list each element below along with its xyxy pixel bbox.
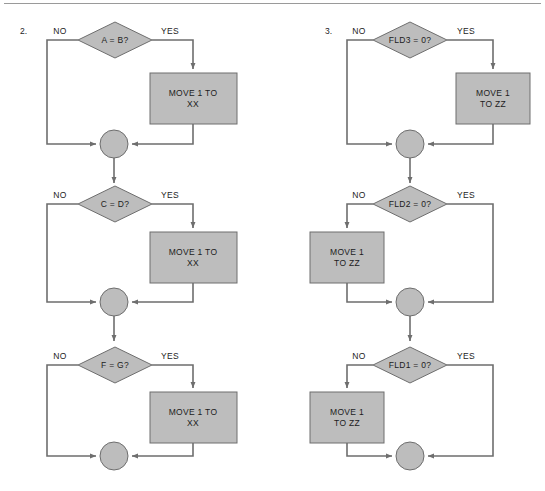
decision-label: FLD3 = 0? <box>389 35 432 45</box>
connector-process-to-merge <box>132 443 193 456</box>
merge-connector-circle <box>396 442 424 470</box>
connector-no-to-process <box>347 365 373 388</box>
connector-process-to-merge <box>132 124 193 144</box>
figure-2-section-3: F = G? NO YES MOVE 1 TO XX <box>47 347 237 470</box>
merge-connector-circle <box>396 130 424 158</box>
branch-label-yes: YES <box>457 26 475 36</box>
decision-label: FLD2 = 0? <box>389 199 432 209</box>
branch-label-no: NO <box>352 190 366 200</box>
process-label-line2: TO ZZ <box>334 418 360 428</box>
merge-connector-circle <box>100 288 128 316</box>
merge-connector-circle <box>100 130 128 158</box>
branch-label-no: NO <box>352 351 366 361</box>
decision-label: C = D? <box>101 199 130 209</box>
connector-yes-to-process <box>152 204 193 228</box>
figure-3-number: 3. <box>325 26 332 36</box>
connector-no-to-process <box>347 204 373 228</box>
branch-label-yes: YES <box>457 190 475 200</box>
process-label-line1: MOVE 1 <box>476 88 510 98</box>
decision-label: FLD1 = 0? <box>389 360 432 370</box>
figure-3: 3. FLD3 = 0? NO YES MOVE 1 TO ZZ <box>310 22 530 470</box>
connector-process-to-merge <box>347 443 392 456</box>
figure-2-section-1: A = B? NO YES MOVE 1 TO XX <box>47 22 237 183</box>
connector-yes-to-process <box>447 40 493 69</box>
figure-3-section-3: FLD1 = 0? NO YES MOVE 1 TO ZZ <box>310 347 493 470</box>
connector-no-branch <box>47 40 96 144</box>
decision-label: A = B? <box>101 35 128 45</box>
merge-connector-circle <box>100 442 128 470</box>
connector-process-to-merge <box>347 283 392 302</box>
flowchart-canvas: 2. A = B? NO YES MOVE 1 TO XX <box>0 0 545 491</box>
branch-label-yes: YES <box>161 190 179 200</box>
process-label-line2: TO ZZ <box>480 99 506 109</box>
figure-2-section-2: C = D? NO YES MOVE 1 TO XX <box>47 186 237 341</box>
branch-label-yes: YES <box>457 351 475 361</box>
connector-yes-branch <box>428 204 493 302</box>
process-label-line1: MOVE 1 TO <box>169 88 218 98</box>
connector-no-branch <box>347 40 392 144</box>
process-label-line2: XX <box>187 418 199 428</box>
connector-process-to-merge <box>132 283 193 302</box>
connector-no-branch <box>47 365 96 456</box>
branch-label-yes: YES <box>161 26 179 36</box>
flowchart-page: 2. A = B? NO YES MOVE 1 TO XX <box>0 0 545 491</box>
connector-yes-to-process <box>152 365 193 388</box>
process-label-line1: MOVE 1 TO <box>169 247 218 257</box>
merge-connector-circle <box>396 288 424 316</box>
figure-3-section-2: FLD2 = 0? NO YES MOVE 1 TO ZZ <box>310 186 493 341</box>
connector-yes-to-process <box>152 40 193 69</box>
connector-no-branch <box>47 204 96 302</box>
branch-label-no: NO <box>53 190 67 200</box>
process-label-line1: MOVE 1 <box>330 247 364 257</box>
figure-3-section-1: FLD3 = 0? NO YES MOVE 1 TO ZZ <box>347 22 530 183</box>
process-label-line2: TO ZZ <box>334 258 360 268</box>
process-label-line2: XX <box>187 258 199 268</box>
decision-label: F = G? <box>101 360 129 370</box>
process-label-line1: MOVE 1 TO <box>169 407 218 417</box>
process-label-line1: MOVE 1 <box>330 407 364 417</box>
figure-2: 2. A = B? NO YES MOVE 1 TO XX <box>20 22 237 470</box>
process-label-line2: XX <box>187 99 199 109</box>
branch-label-yes: YES <box>161 351 179 361</box>
branch-label-no: NO <box>53 26 67 36</box>
figure-2-number: 2. <box>20 26 27 36</box>
branch-label-no: NO <box>352 26 366 36</box>
branch-label-no: NO <box>53 351 67 361</box>
connector-yes-branch <box>428 365 493 456</box>
connector-process-to-merge <box>428 124 493 144</box>
